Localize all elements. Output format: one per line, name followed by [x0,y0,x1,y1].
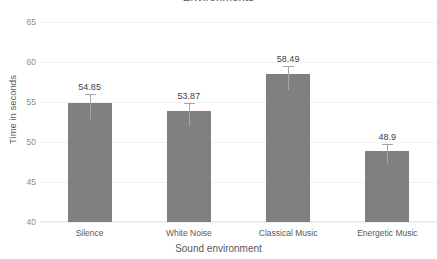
bar-value-label: 54.85 [60,82,120,92]
y-axis-tick-label: 65 [6,18,36,27]
bar [68,103,112,222]
error-bar-cap [283,66,294,67]
y-axis-tick-labels: 656055504540 [0,22,36,222]
y-axis-tick-label: 60 [6,58,36,67]
gridline [40,222,437,223]
bar-value-label: 53.87 [159,91,219,101]
bar [266,74,310,222]
y-axis-tick-label: 55 [6,98,36,107]
error-bar-cap [85,94,96,95]
bar-value-label: 48.9 [357,132,417,142]
bar [167,111,211,222]
error-bar-stem [288,66,289,90]
chart-title: Environments [0,0,437,3]
y-axis-tick-label: 45 [6,178,36,187]
y-axis-tick-label: 50 [6,138,36,147]
gridline [40,62,437,63]
y-axis-tick-label: 40 [6,218,36,227]
x-axis-title: Sound environment [0,243,437,254]
gridline [40,22,437,23]
x-axis-tick-label: Classical Music [238,228,338,238]
error-bar-stem [387,144,388,164]
plot-area: 54.8553.8758.4948.9 [40,22,437,222]
error-bar-stem [189,103,190,126]
error-bar-stem [90,94,91,119]
x-axis-tick-label: White Noise [139,228,239,238]
x-axis-tick-label: Energetic Music [337,228,437,238]
x-axis-tick-label: Silence [40,228,140,238]
error-bar-cap [382,144,393,145]
error-bar-cap [184,103,195,104]
bar-value-label: 58.49 [258,54,318,64]
bar-chart: Environments Time in seconds 65605550454… [0,0,437,259]
